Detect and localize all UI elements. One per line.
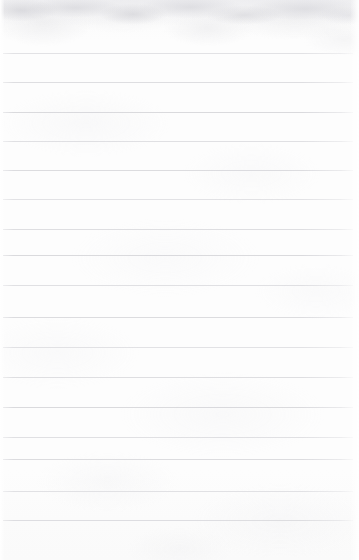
rule-line bbox=[3, 317, 353, 318]
rule-line bbox=[3, 407, 353, 408]
rule-line bbox=[3, 82, 353, 83]
rule-line bbox=[3, 141, 353, 142]
page-line-text bbox=[3, 146, 353, 170]
rule-line bbox=[3, 377, 353, 378]
page-line-text bbox=[3, 467, 353, 491]
rule-line bbox=[3, 229, 353, 230]
rule-line bbox=[3, 199, 353, 200]
page-line-text bbox=[3, 383, 353, 407]
rule-line bbox=[3, 347, 353, 348]
rule-line bbox=[3, 285, 353, 286]
page-line-text bbox=[3, 58, 353, 82]
page-line-text bbox=[3, 323, 353, 347]
page-line-text bbox=[3, 353, 353, 377]
page-line-text bbox=[3, 293, 353, 317]
page-line-text bbox=[3, 205, 353, 229]
page-line-text bbox=[3, 231, 353, 255]
rule-line bbox=[3, 112, 353, 113]
rule-line bbox=[3, 459, 353, 460]
page-line-text bbox=[3, 261, 353, 285]
page-line-text bbox=[3, 29, 353, 53]
page-line-text bbox=[3, 88, 353, 112]
page-line-text bbox=[3, 413, 353, 437]
page-line-text bbox=[3, 175, 353, 199]
page-line-text bbox=[3, 117, 353, 141]
rule-line bbox=[3, 520, 353, 521]
page-line-text bbox=[3, 435, 353, 459]
scanned-page bbox=[0, 0, 359, 560]
rule-line bbox=[3, 491, 353, 492]
rule-line bbox=[3, 53, 353, 54]
page-line-text bbox=[3, 496, 353, 520]
rule-line bbox=[3, 170, 353, 171]
rule-line bbox=[3, 255, 353, 256]
